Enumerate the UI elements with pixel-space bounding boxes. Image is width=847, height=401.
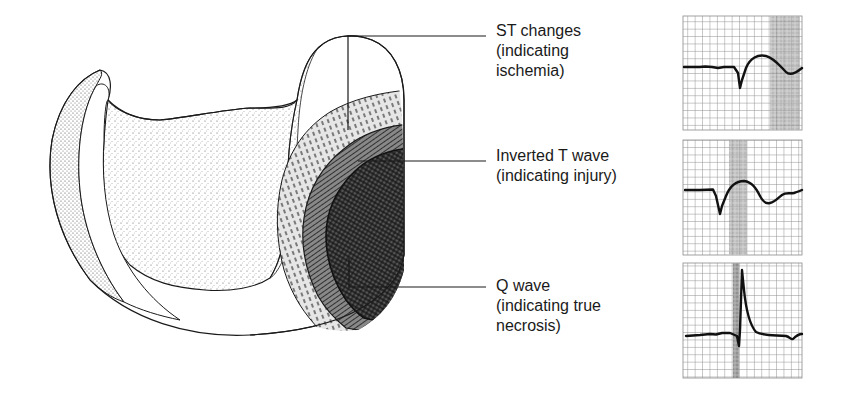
label-necrosis: Q wave (indicating true necrosis) [496, 276, 601, 336]
ecg-inverted-t-wave [683, 140, 802, 255]
label-title: Inverted T wave [496, 146, 617, 166]
ecg-st-changes [683, 16, 802, 130]
heart-illustration [50, 36, 420, 340]
label-title: ST changes [496, 21, 581, 41]
label-ischemia: ST changes (indicating ischemia) [496, 21, 581, 81]
diagram-canvas [0, 0, 847, 401]
label-line: necrosis) [496, 316, 601, 336]
label-line: ischemia) [496, 61, 581, 81]
ecg-q-wave [683, 263, 802, 378]
ecg-highlight-band [733, 263, 739, 378]
heart-cavity [103, 100, 297, 291]
label-title: Q wave [496, 276, 601, 296]
label-line: (indicating true [496, 296, 601, 316]
label-line: (indicating [496, 41, 581, 61]
label-line: (indicating injury) [496, 166, 617, 186]
label-injury: Inverted T wave (indicating injury) [496, 146, 617, 186]
